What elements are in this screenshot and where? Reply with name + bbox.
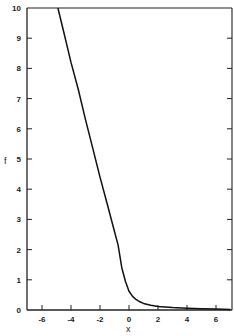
- y-tick-label: 8: [17, 64, 22, 73]
- x-tick-label: 2: [156, 315, 161, 324]
- y-tick-label: 4: [17, 185, 22, 194]
- y-tick-label: 0: [17, 306, 22, 315]
- x-tick-label: -4: [67, 315, 75, 324]
- x-tick-label: -6: [38, 315, 46, 324]
- y-tick-label: 5: [17, 155, 22, 164]
- y-tick-label: 3: [17, 215, 22, 224]
- chart: 012345678910 -6-4-20246 f x: [0, 0, 234, 336]
- y-axis-label: f: [4, 156, 7, 166]
- x-axis-label: x: [126, 324, 131, 334]
- x-tick-label: 6: [214, 315, 219, 324]
- series-group: [58, 8, 231, 309]
- y-tick-label: 6: [17, 125, 22, 134]
- x-tick-label: 0: [127, 315, 132, 324]
- x-tick-label: 4: [185, 315, 190, 324]
- y-tick-label: 9: [17, 34, 22, 43]
- y-tick-label: 1: [17, 276, 22, 285]
- series-line-f: [58, 8, 231, 309]
- plot-frame: [27, 8, 232, 310]
- x-tick-label: -2: [96, 315, 104, 324]
- y-tick-label: 7: [17, 95, 22, 104]
- y-tick-label: 2: [17, 246, 22, 255]
- y-tick-label: 10: [12, 4, 21, 13]
